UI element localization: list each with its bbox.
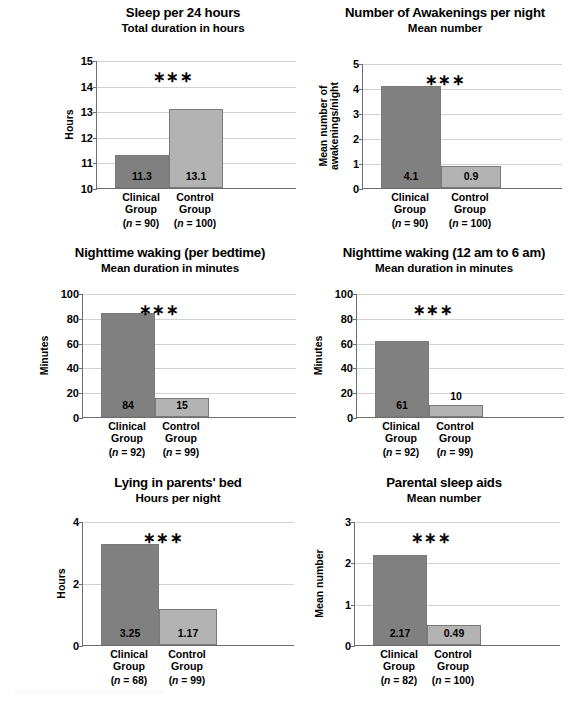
- y-tick-mark: [351, 563, 355, 564]
- plot-row: Mean number01232.170.49∗∗∗: [310, 522, 578, 646]
- y-tick-mark: [79, 344, 83, 345]
- y-tick-label: 60: [341, 338, 353, 350]
- significance-annotation: ∗∗∗: [143, 530, 184, 545]
- sample-size-label: (n = 99): [148, 447, 214, 459]
- y-tick-label: 80: [341, 313, 353, 325]
- chart-title: Lying in parents' bed: [52, 476, 304, 491]
- bar-control-group: 0.9: [441, 166, 501, 189]
- y-axis-tick-labels: 020406080100: [56, 294, 82, 418]
- significance-annotation: ∗∗∗: [139, 302, 180, 317]
- y-axis-tick-labels: 012345: [336, 64, 362, 189]
- bar-value-label: 0.49: [428, 627, 480, 639]
- chart-panel-parental-sleep-aids: Parental sleep aidsMean numberMean numbe…: [310, 476, 578, 699]
- plot-area: 8415∗∗∗: [82, 294, 296, 418]
- y-tick-mark: [79, 319, 83, 320]
- bar-value-label: 13.1: [170, 170, 222, 182]
- gridline: [83, 522, 294, 523]
- chart-title-block: Number of Awakenings per nightMean numbe…: [316, 6, 574, 34]
- y-tick-mark: [93, 61, 97, 62]
- plot-area: 2.170.49∗∗∗: [354, 522, 560, 646]
- sample-size-label: (n = 100): [420, 675, 486, 687]
- y-tick-mark: [359, 189, 363, 190]
- x-axis-category-labels: ClinicalGroup(n = 82)ControlGroup(n = 10…: [354, 649, 560, 695]
- bar-control-group: 10: [429, 405, 483, 417]
- plot-row: Mean number ofawakenings/night0123454.10…: [316, 64, 574, 189]
- figure-panel-grid: Sleep per 24 hoursTotal duration in hour…: [0, 0, 582, 703]
- x-axis-category-labels: ClinicalGroup(n = 92)ControlGroup(n = 99…: [356, 421, 564, 467]
- y-tick-label: 80: [67, 313, 79, 325]
- bar-clinical-group: 3.25: [101, 544, 159, 645]
- gridline: [357, 294, 564, 295]
- y-tick-mark: [353, 294, 357, 295]
- bar-clinical-group: 84: [101, 313, 155, 417]
- chart-subtitle: Total duration in hours: [60, 21, 306, 34]
- y-tick-mark: [93, 138, 97, 139]
- plot-area: 3.251.17∗∗∗: [82, 522, 294, 646]
- y-tick-label: 100: [335, 288, 353, 300]
- bar-value-label: 15: [156, 399, 208, 411]
- bar-control-group: 13.1: [169, 109, 223, 188]
- y-axis-label-text: Mean number: [314, 550, 325, 618]
- sample-size-label: (n = 99): [422, 447, 488, 459]
- chart-title: Sleep per 24 hours: [60, 6, 306, 21]
- y-axis-label-text: Minutes: [314, 336, 325, 376]
- y-tick-label: 10: [81, 183, 93, 195]
- y-tick-mark: [353, 344, 357, 345]
- gridline: [363, 64, 562, 65]
- y-tick-mark: [93, 189, 97, 190]
- significance-annotation: ∗∗∗: [413, 302, 454, 317]
- plot-area: 6110∗∗∗: [356, 294, 564, 418]
- x-label-control-group: ControlGroup(n = 99): [152, 649, 222, 686]
- sample-size-label: (n = 99): [152, 675, 222, 687]
- chart-title: Parental sleep aids: [310, 476, 578, 491]
- y-tick-mark: [359, 164, 363, 165]
- chart-panel-lying-in-parents-bed: Lying in parents' bedHours per nightHour…: [52, 476, 304, 699]
- chart-subtitle: Mean number: [316, 21, 574, 34]
- y-tick-label: 20: [341, 387, 353, 399]
- sample-size-label: (n = 100): [434, 218, 506, 230]
- bar-value-label: 3.25: [102, 627, 158, 639]
- chart-subtitle: Mean duration in minutes: [36, 261, 304, 274]
- x-label-control-group: ControlGroup(n = 99): [422, 421, 488, 458]
- x-axis-category-labels: ClinicalGroup(n = 90)ControlGroup(n = 10…: [362, 192, 562, 238]
- y-tick-label: 13: [81, 106, 93, 118]
- bar-clinical-group: 61: [375, 341, 429, 417]
- bar-control-group: 1.17: [159, 609, 217, 645]
- chart-title: Number of Awakenings per night: [316, 6, 574, 21]
- chart-panel-sleep-per-24-hours: Sleep per 24 hoursTotal duration in hour…: [60, 6, 306, 242]
- y-tick-mark: [359, 139, 363, 140]
- sample-size-label: (n = 100): [162, 218, 228, 230]
- y-tick-mark: [79, 584, 83, 585]
- x-label-line: Group: [148, 433, 214, 445]
- y-tick-label: 40: [341, 362, 353, 374]
- y-tick-mark: [351, 522, 355, 523]
- y-axis-label: Minutes: [36, 294, 54, 418]
- y-tick-label: 20: [67, 387, 79, 399]
- plot-row: Hours0243.251.17∗∗∗: [52, 522, 304, 646]
- bar-value-label: 61: [376, 399, 428, 411]
- x-label-control-group: ControlGroup(n = 100): [420, 649, 486, 686]
- y-tick-mark: [79, 368, 83, 369]
- y-axis-label: Mean number: [310, 522, 328, 646]
- y-tick-mark: [79, 646, 83, 647]
- bar-value-label: 0.9: [442, 170, 500, 182]
- x-axis-category-labels: ClinicalGroup(n = 92)ControlGroup(n = 99…: [82, 421, 296, 467]
- y-axis-tick-labels: 0123: [328, 522, 354, 646]
- y-tick-label: 40: [67, 362, 79, 374]
- significance-annotation: ∗∗∗: [153, 69, 194, 84]
- gridline: [97, 61, 296, 62]
- y-tick-label: 14: [81, 81, 93, 93]
- x-label-control-group: ControlGroup(n = 100): [162, 192, 228, 229]
- x-label-control-group: ControlGroup(n = 100): [434, 192, 506, 229]
- y-tick-mark: [79, 418, 83, 419]
- y-axis-label-text: Minutes: [40, 336, 51, 376]
- y-tick-mark: [359, 89, 363, 90]
- chart-title: Nighttime waking (12 am to 6 am): [310, 246, 578, 261]
- y-tick-mark: [93, 163, 97, 164]
- y-tick-mark: [93, 87, 97, 88]
- y-tick-mark: [353, 319, 357, 320]
- y-tick-mark: [351, 605, 355, 606]
- plot-row: Minutes0204060801008415∗∗∗: [36, 294, 304, 418]
- y-tick-label: 15: [81, 55, 93, 67]
- scan-artifact: [14, 690, 164, 695]
